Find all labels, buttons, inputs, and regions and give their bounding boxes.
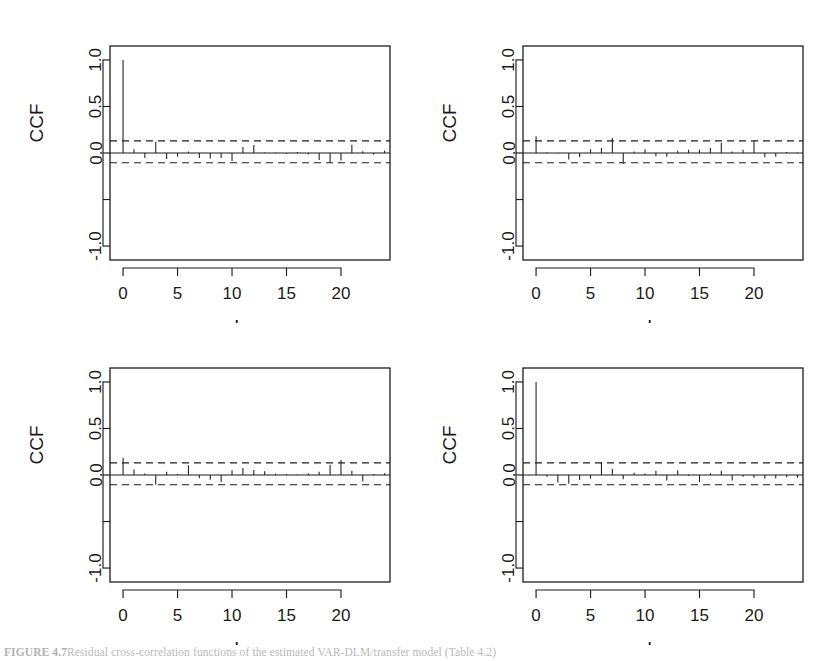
ccf-panel-top-left: 1.00.50.0-1.0CCF05101520Lag xyxy=(0,8,413,323)
x-axis-tick-label: 10 xyxy=(636,606,655,625)
x-axis-tick-label: 5 xyxy=(173,606,182,625)
x-axis-tick-label: 15 xyxy=(277,284,296,303)
y-axis-title: CCF xyxy=(26,103,47,142)
ccf-panel-bottom-right: 1.00.50.0-1.0CCF05101520Lag xyxy=(413,330,826,645)
x-axis-tick-label: 15 xyxy=(277,606,296,625)
x-axis-tick-label: 20 xyxy=(332,284,351,303)
x-axis-tick-label: 5 xyxy=(586,606,595,625)
y-axis-title: CCF xyxy=(26,425,47,464)
ccf-panel-grid: 1.00.50.0-1.0CCF05101520Lag 1.00.50.0-1.… xyxy=(0,0,826,630)
x-axis-tick-label: 0 xyxy=(531,606,540,625)
ccf-panel-bottom-left: 1.00.50.0-1.0CCF05101520Lag xyxy=(0,330,413,645)
y-axis-title: CCF xyxy=(439,103,460,142)
figure-caption-body: Residual cross-correlation functions of … xyxy=(67,646,496,658)
x-axis-tick-label: 20 xyxy=(332,606,351,625)
x-axis-title: Lag xyxy=(234,638,266,646)
x-axis-tick-label: 0 xyxy=(118,284,127,303)
x-axis-tick-label: 10 xyxy=(636,284,655,303)
x-axis-tick-label: 0 xyxy=(118,606,127,625)
y-axis-title: CCF xyxy=(439,425,460,464)
figure-caption-label: FIGURE 4.7 xyxy=(4,646,67,658)
x-axis-tick-label: 10 xyxy=(223,606,242,625)
figure-caption: FIGURE 4.7Residual cross-correlation fun… xyxy=(0,646,826,661)
figure-caption-text: FIGURE 4.7Residual cross-correlation fun… xyxy=(4,646,822,659)
x-axis-title: Lag xyxy=(234,316,266,324)
x-axis-tick-label: 5 xyxy=(173,284,182,303)
x-axis-tick-label: 15 xyxy=(690,284,709,303)
x-axis-tick-label: 15 xyxy=(690,606,709,625)
x-axis-tick-label: 10 xyxy=(223,284,242,303)
x-axis-tick-label: 5 xyxy=(586,284,595,303)
x-axis-tick-label: 20 xyxy=(745,284,764,303)
ccf-figure: 1.00.50.0-1.0CCF05101520Lag 1.00.50.0-1.… xyxy=(0,0,826,661)
x-axis-tick-label: 20 xyxy=(745,606,764,625)
ccf-panel-top-right: 1.00.50.0-1.0CCF05101520Lag xyxy=(413,8,826,323)
x-axis-title: Lag xyxy=(647,316,679,324)
x-axis-tick-label: 0 xyxy=(531,284,540,303)
x-axis-title: Lag xyxy=(647,638,679,646)
